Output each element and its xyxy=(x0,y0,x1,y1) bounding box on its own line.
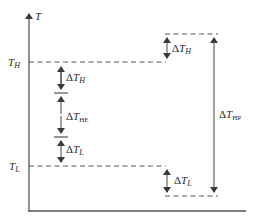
delta-the-label: ΔTHE xyxy=(66,110,89,124)
delta-thp-label: ΔTHP xyxy=(219,108,241,122)
temperature-diagram: T TH TL ΔTH ΔTHE ΔTL ΔTH ΔTL xyxy=(0,0,258,223)
temperature-levels: TH TL xyxy=(8,34,218,196)
right-delta-stack: ΔTH ΔTL xyxy=(167,38,192,192)
y-axis-label: T xyxy=(35,10,42,22)
t-high-label: TH xyxy=(8,56,21,70)
t-low-label: TL xyxy=(9,160,20,174)
right-delta-th-label: ΔTH xyxy=(172,42,192,56)
right-delta-tl-label: ΔTL xyxy=(174,174,192,188)
delta-th-label: ΔTH xyxy=(66,71,86,85)
delta-tl-label: ΔTL xyxy=(66,143,84,157)
delta-thp-span: ΔTHP xyxy=(214,38,241,192)
left-delta-stack: ΔTH ΔTHE ΔTL xyxy=(54,67,89,162)
